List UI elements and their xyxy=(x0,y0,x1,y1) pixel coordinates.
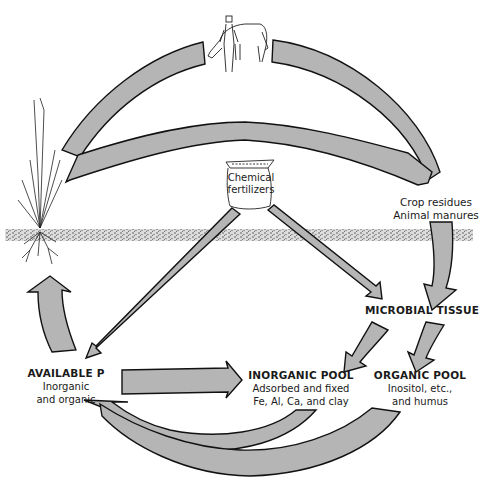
fertilizer-line2: fertilizers xyxy=(222,184,280,196)
soil-surface-band xyxy=(5,229,473,241)
node-fertilizer: Chemical fertilizers xyxy=(222,172,280,196)
fertilizer-line1: Chemical xyxy=(222,172,280,184)
organic-title: ORGANIC POOL xyxy=(370,369,470,382)
node-available: AVAILABLE P Inorganic and organic xyxy=(16,367,116,406)
inorganic-title: INORGANIC POOL xyxy=(246,369,356,382)
node-microbial-title: MICROBIAL TISSUE xyxy=(364,304,480,317)
node-organic: ORGANIC POOL Inositol, etc., and humus xyxy=(370,369,470,408)
available-title: AVAILABLE P xyxy=(16,367,116,380)
organic-line1: Inositol, etc., xyxy=(370,382,470,395)
arrow-microbial-to-organic xyxy=(408,322,444,372)
inorganic-line1: Adsorbed and fixed xyxy=(246,382,356,395)
residues-line2: Animal manures xyxy=(392,209,480,222)
arrow-available-to-plant xyxy=(28,276,76,352)
person-with-horse-icon xyxy=(208,16,268,72)
node-inorganic: INORGANIC POOL Adsorbed and fixed Fe, Al… xyxy=(246,369,356,408)
organic-line2: and humus xyxy=(370,395,470,408)
available-line2: and organic xyxy=(16,393,116,406)
arrow-available-to-inorganic xyxy=(122,361,242,398)
residues-line1: Crop residues xyxy=(392,196,480,209)
arrow-microbial-to-inorganic xyxy=(344,322,388,372)
available-line1: Inorganic xyxy=(16,380,116,393)
inorganic-line2: Fe, Al, Ca, and clay xyxy=(246,395,356,408)
phosphorus-cycle-diagram: Chemical fertilizers Crop residues Anima… xyxy=(0,0,482,483)
arrow-fertilizer-to-microbial xyxy=(268,205,382,299)
node-residues: Crop residues Animal manures xyxy=(392,196,480,222)
